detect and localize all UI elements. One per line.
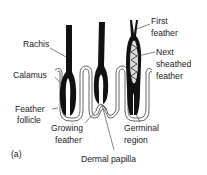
label-calamus: Calamus: [13, 70, 47, 80]
label-growing-feather-2: feather: [55, 135, 82, 145]
feather-follicle-diagram: Rachis Calamus Feather follicle Growing …: [0, 0, 207, 175]
label-rachis: Rachis: [23, 39, 49, 49]
label-germinal-region-2: region: [124, 135, 148, 145]
label-dermal-papilla: Dermal papilla: [81, 154, 136, 164]
label-first-feather-2: feather: [151, 28, 178, 38]
diagram-canvas: Rachis Calamus Feather follicle Growing …: [0, 0, 207, 175]
label-germinal-region-1: Germinal: [124, 123, 159, 133]
label-first-feather-1: First: [151, 16, 168, 26]
feather-middle: [94, 22, 108, 104]
label-feather-follicle-1: Feather: [15, 104, 45, 114]
label-next-sheathed-3: feather: [156, 71, 183, 81]
label-feather-follicle-2: follicle: [17, 115, 41, 125]
feather-right: [126, 20, 141, 115]
panel-label: (a): [11, 149, 22, 159]
label-next-sheathed-1: Next: [156, 47, 174, 57]
label-growing-feather-1: Growing: [51, 123, 83, 133]
feather-left: [60, 25, 76, 116]
label-next-sheathed-2: sheathed: [156, 59, 192, 69]
